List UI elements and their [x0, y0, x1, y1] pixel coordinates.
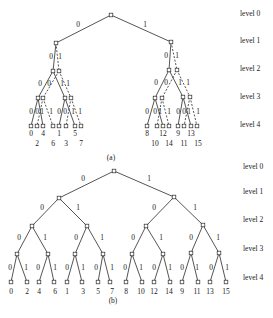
tree-edge-solid: [56, 15, 111, 43]
leaf-label: 12: [159, 129, 167, 138]
leaf-label: 1: [57, 129, 61, 138]
tree-node: [64, 124, 68, 128]
tree-node: [175, 68, 179, 72]
tree-edge-solid: [59, 198, 87, 226]
edge-label: 0: [38, 79, 42, 88]
edge-label: 1: [175, 51, 179, 60]
level-label: level 3: [243, 244, 263, 253]
edge-label: 0: [65, 263, 69, 272]
edge-label: 1: [40, 107, 44, 116]
tree-node: [217, 251, 221, 255]
tree-edge-solid: [53, 43, 56, 71]
leaf-label: 0: [9, 287, 13, 296]
edge-label: 1: [53, 263, 57, 272]
tree-node: [30, 224, 34, 228]
tree-node: [73, 252, 77, 256]
tree-node: [63, 96, 67, 100]
leaf-label: 13: [206, 287, 214, 296]
leaf-label: 7: [110, 287, 114, 296]
level-label: level 3: [240, 92, 260, 101]
tree-edge-solid: [111, 15, 171, 42]
edge-label: 0: [154, 78, 158, 87]
leaf-label: 15: [194, 139, 202, 148]
level-label: level 2: [243, 215, 263, 224]
tree-node: [51, 69, 55, 73]
tree-edge-solid: [114, 171, 174, 197]
leaf-label: 14: [165, 287, 173, 296]
tree-node: [201, 223, 205, 227]
edge-label: 1: [195, 263, 199, 272]
edge-label: 0: [152, 203, 156, 212]
tree-node: [15, 252, 19, 256]
edge-label: 0: [209, 263, 213, 272]
tree-node: [182, 124, 186, 128]
edge-label: 1: [60, 79, 64, 88]
leaf-label: 5: [96, 287, 100, 296]
edge-label: 0: [131, 233, 135, 242]
tree-node: [96, 280, 100, 284]
tree-edge-solid: [174, 197, 203, 225]
tree-node: [112, 169, 116, 173]
binary-tree-figure: 0101010101010101010101010101010415263781…: [0, 0, 273, 318]
leaf-label: 9: [180, 287, 184, 296]
edge-label: 1: [110, 263, 114, 272]
tree-node: [224, 280, 228, 284]
edge-label: 1: [168, 263, 172, 272]
edge-label: 0: [153, 107, 157, 116]
tree-node: [167, 68, 171, 72]
tree-node: [188, 95, 192, 99]
tree-edge-solid: [169, 42, 171, 70]
edge-label: 1: [193, 203, 197, 212]
leaf-label: 11: [193, 287, 200, 296]
level-label: level 1: [240, 36, 260, 45]
tree-node: [101, 252, 105, 256]
tree-node: [80, 280, 84, 284]
edge-label: 1: [43, 233, 47, 242]
leaf-label: 8: [124, 287, 128, 296]
level-label: level 2: [240, 64, 260, 73]
leaf-label: 0: [29, 129, 33, 138]
tree-node: [130, 252, 134, 256]
tree-node: [36, 96, 40, 100]
tree-node: [57, 124, 61, 128]
edge-label: 1: [66, 79, 70, 88]
tree-node: [155, 124, 159, 128]
tree-edge-solid: [146, 197, 174, 226]
edge-label: 1: [71, 107, 75, 116]
tree-node: [69, 96, 73, 100]
tree-node: [41, 124, 45, 128]
edge-label: 0: [29, 107, 33, 116]
edge-label: 0: [164, 78, 168, 87]
leaf-label: 3: [81, 287, 85, 296]
tree-node: [161, 124, 165, 128]
tree-node: [176, 124, 180, 128]
tree-node: [208, 280, 212, 284]
tree-node: [109, 13, 113, 17]
tree-node: [41, 96, 45, 100]
edge-label: 1: [186, 78, 190, 87]
leaf-label: 10: [151, 139, 159, 148]
edge-label: 0: [164, 51, 168, 60]
leaf-label: 11: [180, 139, 187, 148]
edge-label: 0: [17, 233, 21, 242]
leaf-label: 14: [165, 139, 173, 148]
tree-node: [46, 252, 50, 256]
edge-label: 1: [225, 263, 229, 272]
leaf-label: 1: [65, 287, 69, 296]
tree-node: [195, 124, 199, 128]
tree-node: [9, 280, 13, 284]
level-label: level 0: [240, 9, 260, 18]
leaf-label: 2: [35, 139, 39, 148]
tree-node: [153, 96, 157, 100]
tree-node: [51, 124, 55, 128]
tree-node: [73, 124, 77, 128]
edge-label: 1: [139, 263, 143, 272]
edge-label: 1: [158, 107, 162, 116]
tree-node: [140, 280, 144, 284]
subfigure-caption: (b): [109, 296, 118, 305]
edge-label: 0: [35, 107, 39, 116]
leaf-label: 8: [145, 129, 149, 138]
tree-edge-solid: [32, 198, 59, 226]
tree-edge-solid: [11, 254, 17, 282]
tree-node: [85, 224, 89, 228]
